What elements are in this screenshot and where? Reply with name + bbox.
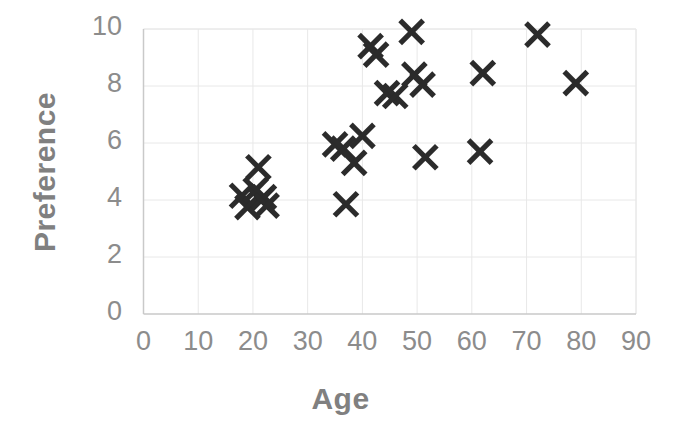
y-tick-label: 2 (72, 239, 122, 270)
data-point (334, 193, 357, 216)
y-tick-label: 0 (72, 296, 122, 327)
data-point (400, 20, 423, 43)
x-tick-label: 30 (278, 326, 338, 357)
x-tick-label: 70 (497, 326, 557, 357)
y-tick-label: 4 (72, 182, 122, 213)
y-tick-label: 8 (72, 68, 122, 99)
x-tick-label: 40 (332, 326, 392, 357)
x-tick-label: 60 (442, 326, 502, 357)
x-tick-label: 50 (387, 326, 447, 357)
data-point (411, 73, 434, 96)
y-axis-title: Preference (28, 22, 62, 322)
data-point (247, 156, 270, 179)
y-tick-label: 10 (72, 11, 122, 42)
data-point (365, 43, 388, 66)
data-point (526, 23, 549, 46)
y-tick-label: 6 (72, 125, 122, 156)
x-axis-title: Age (0, 382, 681, 416)
x-tick-label: 80 (551, 326, 611, 357)
data-point (471, 62, 494, 85)
x-tick-label: 90 (606, 326, 666, 357)
x-tick-label: 20 (223, 326, 283, 357)
data-point (564, 72, 587, 95)
scatter-chart: Preference Age 0102030405060708090 02468… (0, 0, 681, 447)
x-tick-label: 10 (168, 326, 228, 357)
x-tick-label: 0 (114, 326, 174, 357)
